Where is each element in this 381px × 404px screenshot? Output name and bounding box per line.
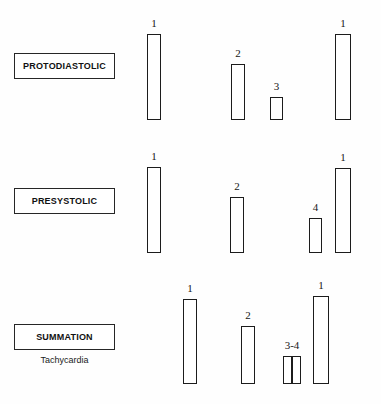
- bar-summation-4: [292, 356, 301, 384]
- figure-canvas: PROTODIASTOLIC 1 2 3 1 PRESYSTOLIC 1 2 4…: [0, 0, 381, 404]
- bar-presystolic-1: [147, 167, 161, 253]
- bar-summation-1b: [313, 296, 329, 384]
- bar-label-presystolic-4: 4: [309, 202, 322, 213]
- row-label-box-presystolic: PRESYSTOLIC: [14, 188, 115, 214]
- bar-presystolic-1b: [335, 168, 351, 253]
- bar-protodiastolic-4: [335, 34, 351, 120]
- bar-summation-2: [241, 326, 255, 384]
- row-label-summation: SUMMATION: [36, 332, 93, 342]
- bar-presystolic-4: [309, 218, 322, 253]
- bar-protodiastolic-3: [270, 97, 283, 120]
- bar-label-presystolic-1b: 1: [335, 152, 351, 163]
- row-summation: SUMMATION Tachycardia 1 2 3-4 1: [0, 270, 381, 404]
- bar-label-presystolic-2: 2: [230, 181, 244, 192]
- bar-protodiastolic-1: [147, 34, 161, 120]
- figure-caption: [0, 396, 381, 404]
- bar-label-summation-2: 2: [241, 310, 255, 321]
- row-sublabel-tachycardia: Tachycardia: [14, 355, 115, 365]
- bar-label-protodiastolic-2: 2: [231, 48, 245, 59]
- bar-label-summation-1: 1: [183, 283, 197, 294]
- bar-label-presystolic-1: 1: [147, 151, 161, 162]
- bar-presystolic-2: [230, 197, 244, 253]
- bar-label-summation-1b: 1: [313, 280, 329, 291]
- bar-label-protodiastolic-1: 1: [147, 18, 161, 29]
- row-label-box-summation: SUMMATION: [14, 324, 115, 350]
- bar-protodiastolic-2: [231, 64, 245, 120]
- bar-label-summation-3-4: 3-4: [277, 340, 307, 351]
- bar-summation-1: [183, 299, 197, 384]
- bar-summation-3: [283, 356, 292, 384]
- bar-label-protodiastolic-4: 1: [335, 18, 351, 29]
- row-presystolic: PRESYSTOLIC 1 2 4 1: [0, 135, 381, 270]
- row-protodiastolic: PROTODIASTOLIC 1 2 3 1: [0, 0, 381, 135]
- row-label-protodiastolic: PROTODIASTOLIC: [23, 61, 106, 71]
- row-label-presystolic: PRESYSTOLIC: [32, 196, 98, 206]
- bar-label-protodiastolic-3: 3: [270, 81, 283, 92]
- row-label-box-protodiastolic: PROTODIASTOLIC: [14, 53, 115, 79]
